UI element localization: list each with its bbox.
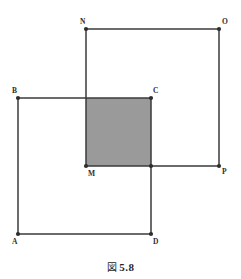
vertex-dot-c bbox=[149, 96, 153, 100]
vertex-label-a: A bbox=[12, 238, 18, 246]
vertex-dot-n bbox=[84, 27, 88, 31]
figure-caption-number: 5.8 bbox=[119, 261, 134, 273]
vertex-dot-a bbox=[16, 232, 20, 236]
figure-caption: 図5.8 bbox=[0, 259, 241, 274]
vertex-dot-overlap-right bbox=[149, 164, 153, 168]
vertex-label-m: M bbox=[88, 170, 95, 178]
geometry-diagram bbox=[0, 0, 241, 279]
vertex-dot-b bbox=[16, 96, 20, 100]
vertex-label-c: C bbox=[153, 87, 159, 95]
figure-container: B A C D N O M P 図5.8 bbox=[0, 0, 241, 279]
vertex-label-b: B bbox=[12, 87, 17, 95]
vertex-dot-o bbox=[217, 27, 221, 31]
shaded-overlap-square bbox=[86, 98, 151, 166]
vertex-dot-p bbox=[217, 164, 221, 168]
vertex-label-p: P bbox=[222, 168, 227, 176]
vertex-label-o: O bbox=[222, 18, 228, 26]
vertex-label-n: N bbox=[80, 18, 86, 26]
vertex-dot-d bbox=[149, 232, 153, 236]
figure-caption-mark: 図 bbox=[107, 262, 118, 273]
vertex-label-d: D bbox=[153, 238, 159, 246]
vertex-dot-m bbox=[84, 164, 88, 168]
